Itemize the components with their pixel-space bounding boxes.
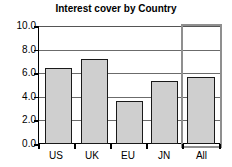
bar-us[interactable]	[45, 68, 72, 144]
chart-container: Interest cover by Country 10.0 8.0 6.0 4…	[0, 0, 232, 167]
bar-jn[interactable]	[151, 81, 178, 145]
y-tick-label: 2.0	[2, 115, 36, 125]
y-tick-label: 8.0	[2, 45, 36, 55]
x-label-all: All	[182, 150, 221, 161]
x-tick-mark	[74, 144, 76, 149]
gridline-10	[39, 26, 222, 27]
x-tick-mark	[38, 144, 40, 149]
y-tick-label: 0.0	[2, 139, 36, 149]
bar-all[interactable]	[187, 77, 215, 144]
plot-area	[38, 26, 221, 144]
y-axis-labels: 10.0 8.0 6.0 4.0 2.0 0.0	[0, 0, 36, 167]
bar-eu[interactable]	[116, 101, 143, 145]
x-label-uk: UK	[74, 150, 110, 161]
gridline-8	[39, 50, 222, 51]
x-label-us: US	[38, 150, 74, 161]
x-tick-mark	[219, 144, 221, 149]
y-tick-label: 6.0	[2, 68, 36, 78]
x-tick-mark	[182, 144, 184, 149]
bar-uk[interactable]	[81, 59, 108, 145]
x-label-eu: EU	[110, 150, 146, 161]
x-label-jn: JN	[146, 150, 182, 161]
y-tick-label: 4.0	[2, 92, 36, 102]
x-tick-mark	[146, 144, 148, 149]
y-tick-label: 10.0	[2, 21, 36, 31]
x-tick-mark	[110, 144, 112, 149]
